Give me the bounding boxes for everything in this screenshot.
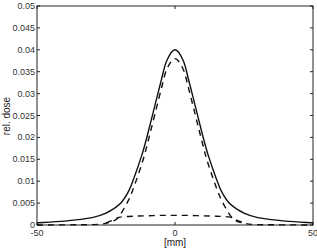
y-tick-label: 0.045 [12,23,35,33]
y-tick-label: 0.03 [17,89,35,99]
plot-area: 00.0050.010.0150.020.0250.030.0350.040.0… [12,1,317,238]
y-tick-label: 0.035 [12,67,35,77]
y-tick-label: 0.01 [17,176,35,186]
y-tick-label: 0.05 [17,1,35,11]
y-tick-label: 0.015 [12,154,35,164]
y-tick-label: 0.04 [17,45,35,55]
x-tick-label: 50 [308,228,317,238]
dose-profile-chart: 00.0050.010.0150.020.0250.030.0350.040.0… [0,0,317,249]
axes-frame [37,6,313,225]
x-tick-label: -50 [30,228,43,238]
y-tick-label: 0.02 [17,132,35,142]
y-tick-label: 0.005 [12,198,35,208]
x-axis-label: [mm] [164,237,186,248]
y-axis-label: rel. dose [1,96,12,135]
y-tick-label: 0.025 [12,111,35,121]
